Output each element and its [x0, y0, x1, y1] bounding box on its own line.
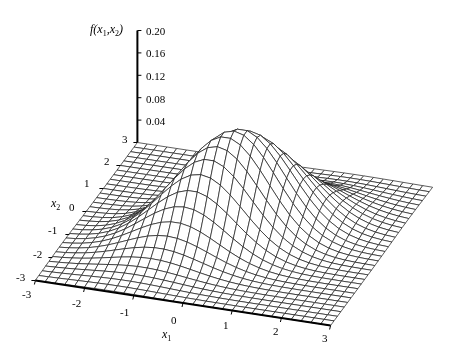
x1-tick-label: -1	[120, 307, 129, 318]
z-tick-label: 0.08	[146, 94, 165, 105]
z-tick-label: 0.04	[146, 116, 165, 127]
surface-plot-canvas	[0, 0, 456, 357]
x2-tick-label: -2	[33, 249, 42, 260]
x2-axis-title: x2	[51, 196, 60, 212]
z-axis-title: f(x1,x2)	[90, 22, 123, 38]
x1-tick-label: 1	[223, 320, 229, 331]
x2-tick-label: 1	[84, 178, 90, 189]
x1-tick-label: -3	[22, 289, 31, 300]
x1-tick-label: 0	[171, 315, 177, 326]
x2-tick-label: -3	[16, 272, 25, 283]
x1-tick-label: 3	[322, 333, 328, 344]
x2-tick-label: -1	[48, 225, 57, 236]
x2-tick-label: 2	[104, 156, 110, 167]
x1-axis-title: x1	[162, 327, 171, 343]
x1-tick-label: 2	[273, 326, 279, 337]
z-tick-label: 0.12	[146, 71, 165, 82]
z-tick-label: 0.16	[146, 48, 165, 59]
x1-tick-label: -2	[72, 298, 81, 309]
x2-tick-label: 0	[69, 202, 75, 213]
z-tick-label: 0.20	[146, 26, 165, 37]
x2-tick-label: 3	[122, 134, 128, 145]
